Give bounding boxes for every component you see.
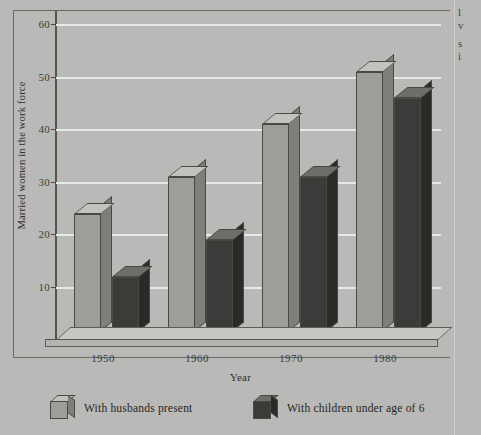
y-tick-label-10: 10 xyxy=(28,281,50,293)
bar-1980-husbands-present xyxy=(356,72,383,340)
bar-1970-children-under-6 xyxy=(300,177,327,340)
gridline-60 xyxy=(56,24,441,26)
gutter-text-line-3: s xyxy=(458,37,463,49)
y-tick-label-50: 50 xyxy=(28,71,50,83)
x-axis-title: Year xyxy=(0,371,481,383)
bar-face xyxy=(168,177,195,340)
bar-face xyxy=(206,240,233,340)
legend-label-children-under-6: With children under age of 6 xyxy=(287,402,425,414)
gutter-text-line-2: v xyxy=(458,19,464,31)
x-axis-baseline xyxy=(45,339,438,340)
cube-front-face xyxy=(50,401,68,419)
bar-side xyxy=(289,106,300,331)
bar-1960-husbands-present xyxy=(168,177,195,340)
y-axis-title: Married women in the work force xyxy=(16,36,27,276)
bar-side xyxy=(101,196,112,331)
bar-face xyxy=(74,214,101,340)
gutter-text-line-4: i xyxy=(458,50,462,62)
legend-label-husbands-present: With husbands present xyxy=(84,402,193,414)
bar-side xyxy=(383,54,394,331)
x-tick-label-1970: 1970 xyxy=(261,352,321,364)
y-tick-mark-30 xyxy=(51,182,56,183)
gutter-text-line-1: l xyxy=(458,6,462,18)
cube-front-face xyxy=(253,401,271,419)
bar-side xyxy=(327,159,338,331)
bar-1970-husbands-present xyxy=(262,124,289,340)
y-tick-mark-40 xyxy=(51,129,56,130)
dark-cube-icon xyxy=(253,395,273,415)
bar-1950-husbands-present xyxy=(74,214,101,340)
bar-side xyxy=(421,80,432,331)
light-cube-icon xyxy=(50,395,70,415)
bar-1960-children-under-6 xyxy=(206,240,233,340)
page-gutter-sliver: l v s i xyxy=(454,0,481,435)
y-tick-label-20: 20 xyxy=(28,228,50,240)
x-tick-label-1950: 1950 xyxy=(73,352,133,364)
bar-side xyxy=(195,159,206,331)
floor-slab-front xyxy=(45,339,438,347)
plot-area xyxy=(56,14,441,340)
x-tick-label-1960: 1960 xyxy=(167,352,227,364)
y-tick-mark-60 xyxy=(51,24,56,25)
x-tick-label-1980: 1980 xyxy=(355,352,415,364)
y-tick-label-30: 30 xyxy=(28,176,50,188)
bar-face xyxy=(262,124,289,340)
bar-face xyxy=(300,177,327,340)
y-tick-mark-50 xyxy=(51,77,56,78)
y-tick-mark-10 xyxy=(51,287,56,288)
chart-legend: With husbands present With children unde… xyxy=(13,386,450,428)
bar-face xyxy=(394,98,421,340)
y-tick-label-60: 60 xyxy=(28,18,50,30)
bar-1980-children-under-6 xyxy=(394,98,421,340)
bar-face xyxy=(356,72,383,340)
cube-side-face xyxy=(271,395,278,418)
y-tick-label-40: 40 xyxy=(28,123,50,135)
cube-side-face xyxy=(68,395,75,418)
bar-chart-figure: Married women in the work force xyxy=(0,0,481,435)
y-tick-mark-20 xyxy=(51,234,56,235)
